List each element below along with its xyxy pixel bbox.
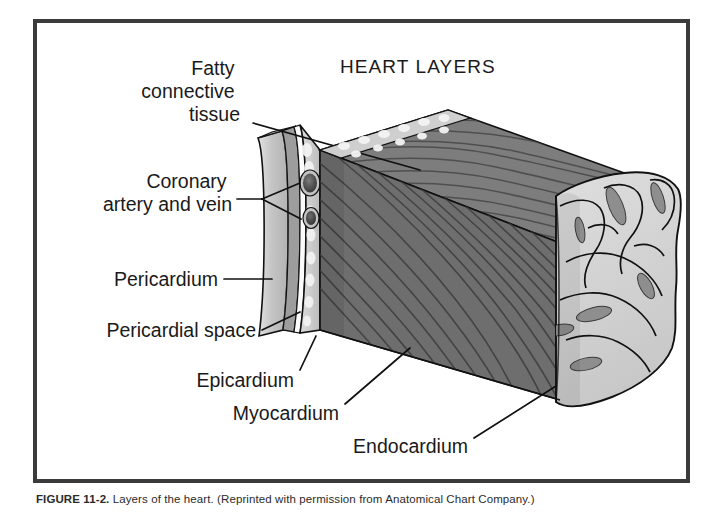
figure-caption-label: FIGURE 11-2. (36, 493, 109, 505)
label-fatty-connective-tissue: Fatty connective tissue (141, 57, 240, 125)
heart-layers-illustration: HEART LAYERS Fatty connective tissue Cor… (0, 0, 716, 516)
label-fatty-line-3: tissue (189, 103, 240, 125)
leader-myocardium (345, 348, 410, 404)
label-myocardium: Myocardium (233, 402, 339, 424)
figure-caption: FIGURE 11-2. Layers of the heart. (Repri… (36, 492, 688, 507)
label-pericardium: Pericardium (114, 268, 218, 290)
endocardium-layer (545, 172, 680, 406)
label-coronary-line-2: artery and vein (103, 193, 232, 215)
label-epicardium: Epicardium (196, 369, 294, 391)
label-fatty-line-1: Fatty (191, 57, 235, 79)
leader-epicardium (300, 336, 316, 370)
coronary-vein-vessel (303, 208, 319, 229)
leader-endocardium (474, 386, 556, 438)
heart-layers-figure: HEART LAYERS Fatty connective tissue Cor… (0, 0, 716, 516)
label-endocardium: Endocardium (353, 435, 468, 457)
diagram-title: HEART LAYERS (340, 56, 496, 77)
coronary-artery-vessel (300, 170, 320, 196)
figure-caption-text: Layers of the heart. (Reprinted with per… (113, 493, 535, 505)
label-coronary-artery-and-vein: Coronary artery and vein (103, 170, 232, 215)
label-coronary-line-1: Coronary (146, 170, 226, 192)
label-pericardial-space: Pericardial space (106, 319, 256, 341)
label-fatty-line-2: connective (141, 80, 234, 102)
